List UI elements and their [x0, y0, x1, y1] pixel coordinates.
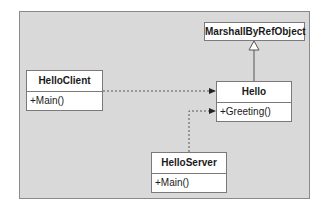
class-helloserver: HelloServer +Main()	[151, 152, 227, 193]
class-helloclient: HelloClient +Main()	[26, 70, 103, 111]
class-operation: +Greeting()	[217, 102, 291, 121]
class-name: HelloServer	[152, 153, 226, 173]
class-name: HelloClient	[27, 71, 102, 91]
class-name: Hello	[217, 82, 291, 102]
class-operation: +Main()	[27, 91, 102, 110]
class-name: MarshallByRefObject	[205, 23, 304, 40]
dependency-arrow-client	[103, 88, 216, 94]
generalization-arrow	[249, 41, 259, 81]
class-hello: Hello +Greeting()	[216, 81, 292, 122]
dependency-arrow-server	[189, 108, 216, 152]
class-marshallbyrefobject: MarshallByRefObject	[204, 22, 305, 41]
class-operation: +Main()	[152, 173, 226, 192]
